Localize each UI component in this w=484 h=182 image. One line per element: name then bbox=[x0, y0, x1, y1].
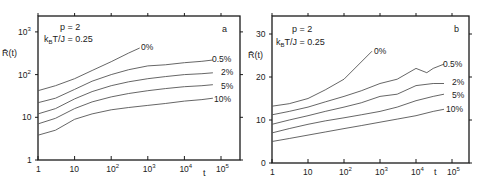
x-axis-label-a: t bbox=[203, 168, 206, 178]
x-axis-label-b: t bbox=[434, 167, 437, 177]
x-tick-label: 10 bbox=[70, 164, 80, 174]
curve-label-0-5pct: 0.5% bbox=[212, 54, 232, 64]
y-tick-label: 102 bbox=[18, 69, 31, 80]
curve-0-5pct bbox=[38, 60, 213, 103]
curve-label-2pct: 2% bbox=[452, 77, 465, 87]
curve-label-5pct: 5% bbox=[452, 90, 465, 100]
x-tick-label: 103 bbox=[375, 166, 388, 177]
curve-label-0-5pct: 0.5% bbox=[443, 59, 463, 69]
param-temperature-b: kBT/J = 0.25 bbox=[276, 37, 325, 48]
x-tick-label: 103 bbox=[143, 163, 156, 174]
curve-label-0pct: 0% bbox=[374, 46, 387, 56]
curve-labels-a: 0% 0.5% 2% 5% 10% bbox=[141, 42, 234, 104]
panel-b: 1101021031041050102030 p = 2 kBT/J = 0.2… bbox=[248, 13, 472, 177]
figure: 110102103104105110102103 p = 2 kBT/J = 0… bbox=[0, 0, 484, 182]
x-tick-label: 105 bbox=[216, 163, 229, 174]
curves-a bbox=[38, 48, 213, 135]
param-p-a: p = 2 bbox=[60, 22, 80, 32]
x-tick-label: 104 bbox=[411, 166, 424, 177]
y-axis-label-b: R̄(t) bbox=[248, 50, 263, 60]
curve-label-0pct: 0% bbox=[141, 42, 154, 52]
x-tick-label: 1 bbox=[270, 167, 275, 177]
panel-label-b: b bbox=[454, 24, 459, 34]
curve-label-2pct: 2% bbox=[221, 67, 234, 77]
curve-10pct bbox=[272, 109, 444, 141]
param-temperature-a: kBT/J = 0.25 bbox=[44, 34, 93, 45]
x-tick-label: 105 bbox=[447, 166, 460, 177]
y-tick-label: 30 bbox=[256, 29, 266, 39]
y-tick-label: 1 bbox=[27, 155, 32, 165]
curve-label-10pct: 10% bbox=[446, 104, 463, 114]
x-tick-label: 102 bbox=[106, 163, 119, 174]
y-tick-label: 0 bbox=[261, 158, 266, 168]
x-tick-label: 1 bbox=[36, 164, 41, 174]
curve-5pct bbox=[272, 94, 444, 133]
curve-labels-b: 0% 0.5% 2% 5% 10% bbox=[374, 46, 465, 114]
y-axis-label-a: R̄(t) bbox=[2, 48, 17, 58]
param-p-b: p = 2 bbox=[292, 24, 312, 34]
panel-label-a: a bbox=[222, 24, 227, 34]
x-tick-label: 104 bbox=[179, 163, 192, 174]
y-tick-label: 10 bbox=[256, 115, 266, 125]
curves-b bbox=[272, 51, 444, 141]
curve-label-5pct: 5% bbox=[221, 81, 234, 91]
y-tick-label: 103 bbox=[18, 26, 31, 37]
curve-0pct bbox=[272, 51, 372, 106]
panel-a: 110102103104105110102103 p = 2 kBT/J = 0… bbox=[2, 13, 243, 178]
x-tick-label: 102 bbox=[339, 166, 352, 177]
curve-0-5pct bbox=[272, 64, 444, 115]
y-tick-label: 10 bbox=[22, 112, 32, 122]
curve-label-10pct: 10% bbox=[214, 94, 231, 104]
y-tick-label: 20 bbox=[256, 72, 266, 82]
x-tick-label: 10 bbox=[303, 167, 313, 177]
curve-0pct bbox=[38, 48, 140, 91]
curve-2pct bbox=[272, 84, 444, 125]
